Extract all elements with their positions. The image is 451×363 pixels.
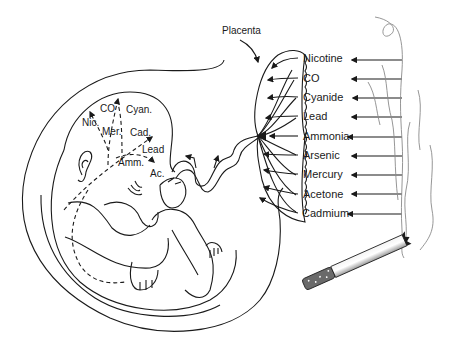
brain-label-co: CO xyxy=(100,103,115,114)
toxin-label-lead: Lead xyxy=(303,110,327,122)
uterus-outline xyxy=(22,60,283,331)
brain-label-cad: Cad. xyxy=(130,127,151,138)
toxin-label-cyanide: Cyanide xyxy=(303,91,343,103)
placenta-label: Placenta xyxy=(222,25,261,36)
brain-label-ac: Ac. xyxy=(150,168,164,179)
toxin-label-mercury: Mercury xyxy=(303,168,343,180)
brain-label-mer: Mer. xyxy=(102,126,121,137)
brain-label-cyan: Cyan. xyxy=(126,104,152,115)
fetal-brain-labels: Nic. CO Cyan. Mer. Cad. Lead Amm. Ac. xyxy=(82,103,164,179)
smoking-pregnancy-diagram: Placenta Nicotine CO Cyanide Lead Ammoni… xyxy=(0,0,451,363)
toxin-label-arsenic: Arsenic xyxy=(303,149,340,161)
brain-label-amm: Amm. xyxy=(118,157,144,168)
brain-label-lead: Lead xyxy=(142,144,164,155)
toxin-label-nicotine: Nicotine xyxy=(303,52,343,64)
cigarette-filter xyxy=(302,267,336,291)
umbilical-cord xyxy=(172,136,258,192)
fetus-figure xyxy=(65,151,222,297)
cigarette-body xyxy=(331,235,407,278)
cigarette xyxy=(301,231,413,291)
toxin-label-co: CO xyxy=(303,72,320,84)
toxin-label-cadmium: Cadmium xyxy=(302,207,349,219)
brain-label-nic: Nic. xyxy=(82,117,99,128)
toxin-labels: Nicotine CO Cyanide Lead Ammonia Arsenic… xyxy=(302,52,350,219)
toxin-label-ammonia: Ammonia xyxy=(303,130,350,142)
toxin-label-acetone: Acetone xyxy=(303,188,343,200)
